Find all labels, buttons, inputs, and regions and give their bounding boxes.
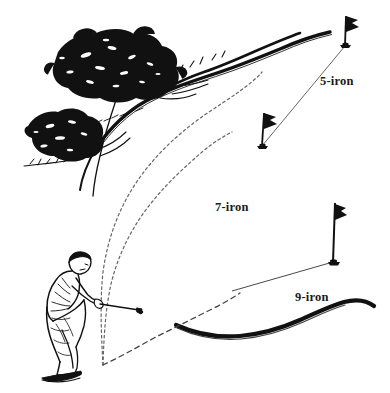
label-5-iron: 5-iron [320,74,354,89]
label-9-iron: 9-iron [295,290,329,305]
label-7-iron: 7-iron [215,200,249,215]
golf-scene-illustration [0,0,390,393]
golf-illustration-page: 5-iron 7-iron 9-iron [0,0,390,393]
